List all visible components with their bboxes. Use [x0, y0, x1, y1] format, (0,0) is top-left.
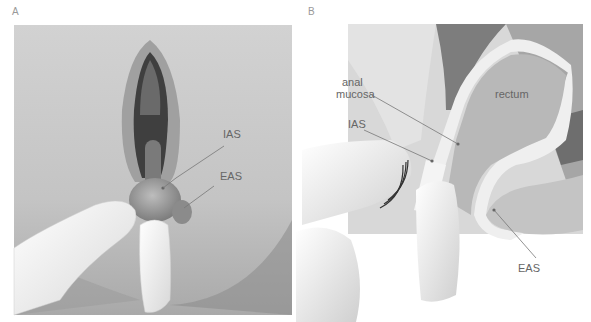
panel-letter: A: [12, 6, 19, 17]
anal-mucosa-label-line1: anal: [342, 76, 363, 88]
panel-letter: B: [308, 6, 315, 17]
panel-b-cross-section: B anal mucosa rectum IAS EAS: [296, 0, 591, 322]
rectum-label: rectum: [495, 88, 529, 100]
ias-label: IAS: [223, 128, 241, 140]
ias-label: IAS: [348, 118, 366, 130]
anal-mucosa-label-line2: mucosa: [336, 88, 375, 100]
eas-label: EAS: [518, 262, 540, 274]
eas-label: EAS: [220, 170, 242, 182]
panel-a-external-view: A IAS EAS: [0, 0, 295, 322]
panel-a-illustration: [0, 0, 295, 322]
panel-b-illustration: [296, 0, 591, 322]
